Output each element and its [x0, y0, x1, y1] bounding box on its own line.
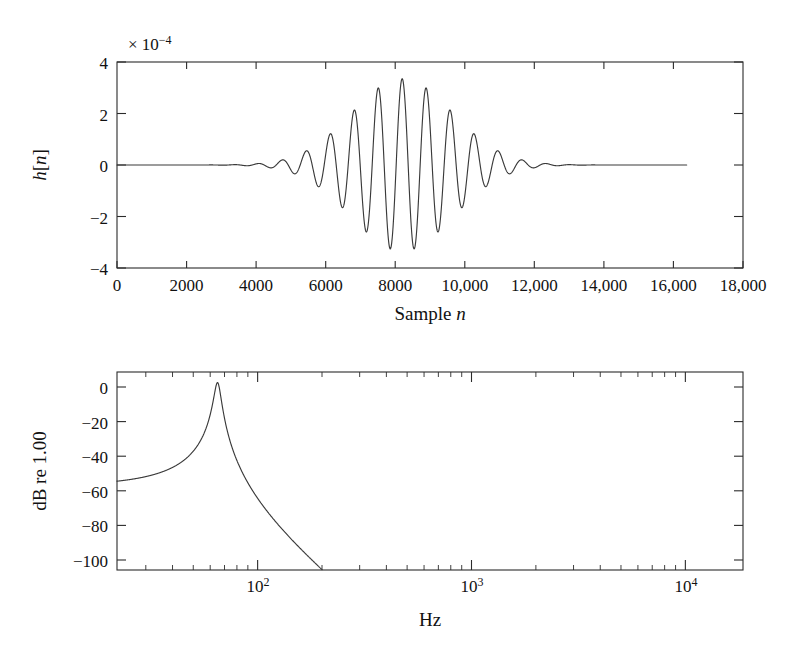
bottom-panel-x-ticklabels: 102 103 104 [247, 575, 698, 596]
bottom-ytick-label-neg100: −100 [73, 552, 108, 571]
bottom-xtick-mantissa-10000: 10 [675, 577, 692, 596]
xlabel-sample-italic-n: n [456, 303, 466, 324]
ylabel-n: n [29, 156, 50, 166]
bottom-panel-y-ticklabels: 0 −20 −40 −60 −80 −100 [73, 379, 108, 571]
bottom-xtick-mantissa-100: 10 [247, 577, 264, 596]
bottom-ytick-label-neg20: −20 [81, 414, 108, 433]
top-xtick-label-2000: 2000 [170, 276, 204, 295]
magnitude-response-curve [117, 383, 322, 570]
impulse-response-curve [117, 79, 687, 249]
top-panel-ylabel: h[n] [29, 149, 50, 181]
top-panel-impulse-response: 4 2 0 −2 −4 0 2000 4000 6000 8000 10,000… [29, 33, 766, 324]
top-ytick-label-4: 4 [100, 54, 109, 73]
bottom-panel-ylabel: dB re 1.00 [29, 431, 50, 511]
bottom-ytick-label-neg40: −40 [81, 448, 108, 467]
bottom-xlabel-text: Hz [419, 609, 441, 630]
top-panel-xlabel: Sample n [394, 303, 465, 324]
top-xtick-label-14000: 14,000 [581, 276, 628, 295]
bottom-xtick-exponent-1000: 3 [478, 575, 484, 589]
top-xtick-label-4000: 4000 [239, 276, 273, 295]
top-panel-axis-multiplier: × 10−4 [128, 33, 172, 54]
top-xtick-label-6000: 6000 [309, 276, 343, 295]
bottom-ytick-label-neg80: −80 [81, 517, 108, 536]
top-ytick-label-neg2: −2 [90, 209, 108, 228]
top-xtick-label-12000: 12,000 [511, 276, 558, 295]
top-xtick-label-8000: 8000 [378, 276, 412, 295]
top-ytick-label-0: 0 [100, 157, 109, 176]
bottom-xtick-exponent-100: 2 [264, 575, 270, 589]
svg-text:103: 103 [461, 575, 484, 596]
ylabel-bracket-close: ] [29, 149, 50, 155]
multiplier-exponent: −4 [159, 33, 172, 47]
bottom-ytick-label-neg60: −60 [81, 483, 108, 502]
top-ytick-label-2: 2 [100, 106, 109, 125]
bottom-panel-axes-frame [117, 372, 743, 570]
top-xtick-label-16000: 16,000 [650, 276, 697, 295]
top-panel-x-ticklabels: 0 2000 4000 6000 8000 10,000 12,000 14,0… [113, 276, 767, 295]
bottom-panel-xlabel: Hz [419, 609, 441, 630]
bottom-ylabel-text: dB re 1.00 [29, 431, 50, 511]
top-xtick-label-10000: 10,000 [441, 276, 488, 295]
top-ytick-label-neg4: −4 [90, 260, 109, 279]
svg-text:× 10−4: × 10−4 [128, 33, 172, 54]
top-xtick-label-0: 0 [113, 276, 122, 295]
bottom-ytick-label-0: 0 [100, 379, 109, 398]
top-panel-y-ticklabels: 4 2 0 −2 −4 [90, 54, 109, 279]
svg-text:Sample n: Sample n [394, 303, 465, 324]
svg-text:104: 104 [675, 575, 698, 596]
xlabel-sample-text: Sample [394, 303, 456, 324]
bottom-panel-magnitude-response: 0 −20 −40 −60 −80 −100 102 103 104 dB re… [29, 372, 743, 630]
figure-svg: 4 2 0 −2 −4 0 2000 4000 6000 8000 10,000… [0, 0, 797, 670]
bottom-xtick-mantissa-1000: 10 [461, 577, 478, 596]
figure-container: 4 2 0 −2 −4 0 2000 4000 6000 8000 10,000… [0, 0, 797, 670]
top-xtick-label-18000: 18,000 [720, 276, 767, 295]
bottom-panel-x-ticks [146, 372, 686, 570]
ylabel-h: h [29, 171, 50, 181]
svg-text:102: 102 [247, 575, 270, 596]
svg-text:h[n]: h[n] [29, 149, 50, 181]
bottom-xtick-exponent-10000: 4 [692, 575, 698, 589]
multiplier-prefix: × 10 [128, 35, 159, 54]
